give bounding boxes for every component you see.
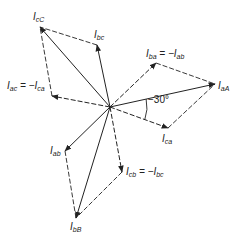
angle-arc-30deg bbox=[145, 99, 147, 120]
label-IbB: IbB bbox=[70, 222, 81, 233]
label-Icb: Icb = −Ibc bbox=[126, 167, 164, 178]
angle-arc bbox=[145, 99, 147, 120]
construction-line bbox=[156, 63, 215, 84]
construction-line bbox=[65, 151, 76, 218]
label-IcC: IcC bbox=[33, 12, 44, 23]
angle-label: −30° bbox=[148, 94, 169, 105]
label-IaA: IaA bbox=[218, 81, 229, 92]
label-Iac: Iac = −Ica bbox=[7, 81, 45, 92]
phasor-arrows bbox=[40, 27, 215, 218]
phasor-Icb bbox=[110, 107, 122, 172]
three-phase-phasor-diagram bbox=[0, 0, 248, 240]
label-Ibc: Ibc bbox=[94, 30, 104, 41]
construction-line bbox=[168, 84, 215, 128]
parallelogram-construction-lines bbox=[40, 27, 215, 218]
label-Iab: Iab bbox=[50, 146, 61, 157]
construction-line bbox=[40, 27, 97, 45]
phasor-Ibc bbox=[97, 45, 110, 107]
label-Iba: Iba = −Iab bbox=[146, 49, 184, 60]
label-Ica: Ica bbox=[162, 134, 172, 145]
phasor-Ica bbox=[110, 107, 168, 128]
